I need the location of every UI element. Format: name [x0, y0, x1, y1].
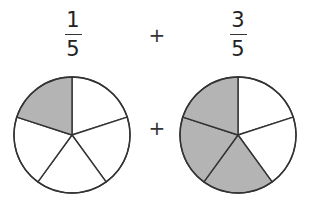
pie-chart-one-fifth — [14, 77, 130, 193]
pie-chart-three-fifths — [180, 77, 296, 193]
pie-models — [0, 0, 311, 205]
